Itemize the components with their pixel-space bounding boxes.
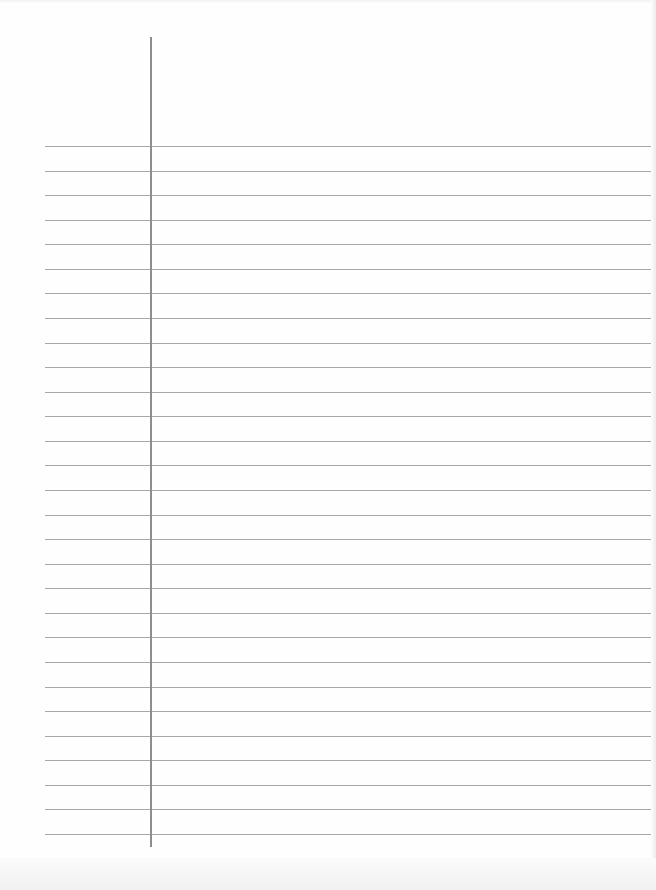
ruled-line: [45, 441, 656, 442]
top-edge-shadow: [0, 0, 656, 3]
ruled-line: [45, 785, 656, 786]
right-edge-shadow: [651, 0, 656, 890]
ruled-line: [45, 588, 656, 589]
ruled-line: [45, 515, 656, 516]
ruled-line: [45, 465, 656, 466]
ruled-line: [45, 711, 656, 712]
bottom-edge-shadow: [0, 858, 656, 890]
ruled-line: [45, 318, 656, 319]
ruled-line: [45, 343, 656, 344]
ruled-line: [45, 195, 656, 196]
ruled-line: [45, 760, 656, 761]
margin-line: [150, 37, 152, 847]
ruled-line: [45, 834, 656, 835]
ruled-line: [45, 244, 656, 245]
ruled-line: [45, 564, 656, 565]
ruled-line: [45, 662, 656, 663]
ruled-line: [45, 687, 656, 688]
ruled-line: [45, 613, 656, 614]
ruled-line: [45, 220, 656, 221]
lined-paper: [0, 0, 656, 890]
ruled-line: [45, 809, 656, 810]
ruled-line: [45, 367, 656, 368]
ruled-line: [45, 293, 656, 294]
ruled-line: [45, 416, 656, 417]
ruled-line: [45, 539, 656, 540]
ruled-line: [45, 171, 656, 172]
ruled-line: [45, 146, 656, 147]
ruled-line: [45, 269, 656, 270]
ruled-line: [45, 736, 656, 737]
ruled-line: [45, 490, 656, 491]
ruled-line: [45, 637, 656, 638]
ruled-line: [45, 392, 656, 393]
